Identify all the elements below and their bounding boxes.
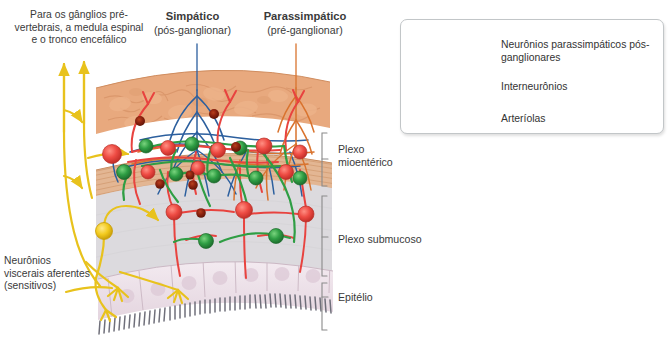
label-parasympathetic-sub: (pré-ganglionar) — [245, 24, 365, 37]
legend-label-interneurons: Interneurônios — [501, 80, 661, 93]
afferent-cell-body — [96, 223, 113, 240]
enteric-nervous-system-diagram: Para os gânglios pré-vertebrais, a medul… — [0, 0, 668, 352]
label-sympathetic-sub: (pós-ganglionar) — [140, 24, 245, 37]
bracket-label-epithelium: Epitélio — [338, 291, 418, 304]
bracket-label-myenteric-plexus: Plexo mioentérico — [338, 143, 418, 169]
label-parasympathetic-title: Parassimpático — [245, 10, 365, 24]
label-visceral-afferent-neurons: Neurônios viscerais aferentes (sensitivo… — [4, 255, 90, 293]
legend-label-arterioles: Arteríolas — [501, 112, 661, 125]
label-sympathetic-title: Simpático — [140, 10, 245, 24]
label-prevertebral-ganglia: Para os gânglios pré-vertebrais, a medul… — [14, 9, 144, 47]
label-sympathetic: Simpático (pós-ganglionar) — [140, 10, 245, 37]
bracket-label-submucosal-plexus: Plexo submucoso — [338, 233, 433, 246]
legend-label-parasympathetic-neurons: Neurônios parassimpáticos pós-ganglionar… — [501, 38, 661, 64]
label-parasympathetic: Parassimpático (pré-ganglionar) — [245, 10, 365, 37]
